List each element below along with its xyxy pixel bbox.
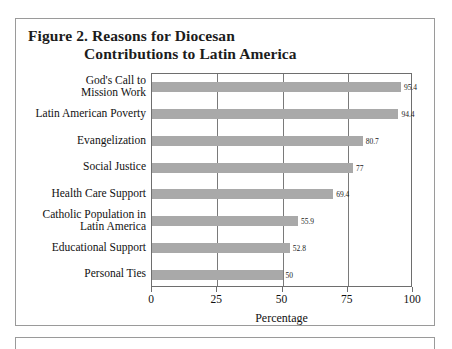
bar [152, 109, 398, 119]
category-label: Personal Ties [14, 267, 146, 280]
gridline [283, 74, 284, 286]
bar-chart: God's Call toMission WorkLatin American … [16, 73, 436, 325]
x-tick-mark [282, 287, 283, 292]
bar-row: 95.4 [152, 82, 411, 92]
bar-row: 55.9 [152, 216, 411, 226]
bar [152, 270, 283, 280]
bar-row: 52.8 [152, 243, 411, 253]
bar [152, 136, 363, 146]
figure-title: Figure 2. Reasons for Diocesan Contribut… [28, 27, 422, 63]
bar [152, 82, 401, 92]
plot-area: 95.494.480.77769.455.952.850 [151, 73, 412, 287]
category-label-line: Social Justice [14, 160, 146, 173]
bar-value-label: 95.4 [401, 83, 417, 92]
bar [152, 243, 290, 253]
category-label-line: God's Call to [14, 74, 146, 87]
gridline [217, 74, 218, 286]
gridline [348, 74, 349, 286]
bar-row: 80.7 [152, 136, 411, 146]
category-label: Evangelization [14, 134, 146, 147]
next-figure-container-partial [15, 337, 435, 349]
bar [152, 216, 298, 226]
category-label-line: Educational Support [14, 241, 146, 254]
bar-row: 50 [152, 270, 411, 280]
category-label-line: Catholic Population in [14, 208, 146, 221]
category-label-line: Evangelization [14, 134, 146, 147]
bar-value-label: 50 [283, 270, 294, 279]
bar-value-label: 94.4 [398, 110, 414, 119]
x-axis: 0255075100 [151, 287, 412, 309]
bar [152, 189, 333, 199]
bar-value-label: 55.9 [298, 217, 314, 226]
bar [152, 163, 353, 173]
category-label: Catholic Population inLatin America [14, 208, 146, 233]
category-label-line: Health Care Support [14, 187, 146, 200]
x-tick-label: 50 [276, 293, 288, 305]
category-label-line: Mission Work [14, 86, 146, 99]
bar-row: 69.4 [152, 189, 411, 199]
figure-container: Figure 2. Reasons for Diocesan Contribut… [15, 18, 435, 326]
x-tick-mark [151, 287, 152, 292]
category-label: Social Justice [14, 160, 146, 173]
bar-row: 77 [152, 163, 411, 173]
category-label: God's Call toMission Work [14, 74, 146, 99]
bar-value-label: 77 [353, 163, 364, 172]
x-tick-label: 25 [211, 293, 223, 305]
bar-value-label: 52.8 [290, 243, 306, 252]
x-axis-title: Percentage [151, 311, 412, 326]
category-label-line: Personal Ties [14, 267, 146, 280]
x-tick-mark [412, 287, 413, 292]
bar-row: 94.4 [152, 109, 411, 119]
category-axis: God's Call toMission WorkLatin American … [16, 73, 150, 287]
x-tick-label: 100 [403, 293, 420, 305]
category-label-line: Latin American Poverty [14, 107, 146, 120]
x-tick-mark [347, 287, 348, 292]
category-label: Health Care Support [14, 187, 146, 200]
bar-value-label: 80.7 [363, 136, 379, 145]
category-label: Latin American Poverty [14, 107, 146, 120]
category-label-line: Latin America [14, 220, 146, 233]
x-tick-label: 0 [148, 293, 154, 305]
bar-value-label: 69.4 [333, 190, 349, 199]
x-tick-label: 75 [341, 293, 353, 305]
x-tick-mark [216, 287, 217, 292]
figure-title-line-2: Contributions to Latin America [28, 45, 422, 63]
category-label: Educational Support [14, 241, 146, 254]
figure-title-line-1: Figure 2. Reasons for Diocesan [28, 27, 422, 45]
